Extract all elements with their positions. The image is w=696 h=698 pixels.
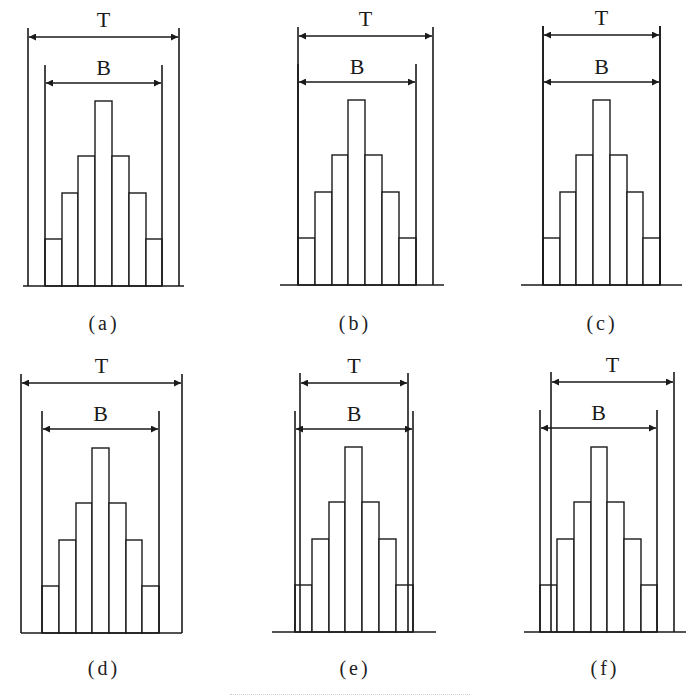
histogram-bar <box>42 586 59 633</box>
histogram-bar <box>362 502 379 632</box>
histogram-bar <box>557 539 574 632</box>
tolerance-label: T <box>359 6 373 31</box>
tolerance-label: T <box>347 353 361 378</box>
histogram-bar <box>593 100 610 285</box>
histogram-bar <box>59 540 76 633</box>
histogram-bar <box>109 503 126 633</box>
histogram-bar <box>543 238 560 285</box>
histogram-bar <box>112 156 129 286</box>
histogram-bar <box>76 503 92 633</box>
histogram-bar <box>329 502 345 632</box>
panel-f: TB(f) <box>524 352 686 680</box>
panel-caption: (c) <box>586 312 617 335</box>
panel-caption: (e) <box>339 657 370 680</box>
spread-label: B <box>347 401 362 426</box>
spread-label: B <box>591 400 606 425</box>
histogram-bar <box>315 192 332 285</box>
histogram-bar <box>298 238 315 285</box>
histogram-bar <box>142 586 159 633</box>
panel-d: TB(d) <box>21 353 182 680</box>
histogram-bar <box>399 238 416 285</box>
histogram-bar <box>129 193 146 286</box>
histogram-bar <box>78 156 95 286</box>
histogram-figure: TB(a) TB(b) TB(c) TB(d) TB(e) TB(f) <box>0 0 696 698</box>
histogram-bar <box>295 585 312 632</box>
histogram-bar <box>607 502 624 632</box>
histogram-bar <box>610 155 627 285</box>
histogram-bar <box>576 155 593 285</box>
histogram-bar <box>574 502 591 632</box>
panel-caption: (a) <box>88 312 119 335</box>
tolerance-label: T <box>95 353 109 378</box>
histogram-bar <box>560 192 576 285</box>
histogram-bar <box>540 585 557 632</box>
panel-c: TB(c) <box>521 5 682 335</box>
panel-a: TB(a) <box>23 7 184 335</box>
panel-caption: (d) <box>88 657 120 680</box>
clipped-figure-caption <box>230 694 470 698</box>
panel-e: TB(e) <box>272 353 436 680</box>
histogram-bar <box>348 100 365 285</box>
histogram-bar <box>126 540 142 633</box>
spread-label: B <box>93 401 108 426</box>
histogram-bar <box>95 101 112 286</box>
histogram-bar <box>62 193 78 286</box>
histogram-bar <box>591 447 607 632</box>
histogram-bar <box>45 239 62 286</box>
tolerance-label: T <box>97 7 111 32</box>
histogram-bar <box>365 155 382 285</box>
tolerance-label: T <box>595 5 609 30</box>
histogram-bar <box>92 448 109 633</box>
histogram-bar <box>382 192 399 285</box>
histogram-bar <box>312 539 329 632</box>
spread-label: B <box>350 54 365 79</box>
spread-label: B <box>594 54 609 79</box>
histogram-bar <box>624 539 641 632</box>
histogram-bar <box>396 585 413 632</box>
panel-caption: (f) <box>591 657 620 680</box>
spread-label: B <box>96 55 111 80</box>
histogram-bar <box>627 192 643 285</box>
histogram-bar <box>379 539 396 632</box>
panel-b: TB(b) <box>280 6 444 335</box>
histogram-bar <box>643 238 660 285</box>
histogram-bar <box>146 239 162 286</box>
tolerance-label: T <box>606 352 620 377</box>
panel-caption: (b) <box>339 312 371 335</box>
histogram-bar <box>332 155 348 285</box>
histogram-bar <box>641 585 657 632</box>
histogram-bar <box>345 447 362 632</box>
